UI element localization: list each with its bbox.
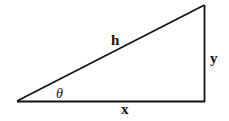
adjacent-label: x bbox=[121, 101, 129, 117]
angle-theta-label: θ bbox=[56, 86, 63, 101]
hypotenuse-side bbox=[17, 5, 205, 101]
triangle-diagram: h y x θ bbox=[0, 0, 229, 121]
hypotenuse-label: h bbox=[111, 32, 120, 48]
opposite-label: y bbox=[210, 50, 218, 66]
